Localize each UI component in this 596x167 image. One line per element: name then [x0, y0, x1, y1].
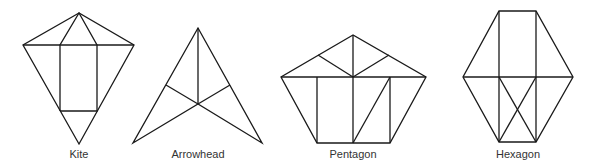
pentagon-right-roof-segment [353, 55, 389, 77]
arrowhead-label: Arrowhead [171, 148, 224, 160]
pentagon-left-roof-segment [318, 55, 353, 77]
pentagon-label: Pentagon [329, 148, 376, 160]
shapes-diagram [0, 0, 596, 167]
arrowhead-right-segment [198, 85, 230, 104]
pentagon-diagonal [353, 77, 390, 143]
hexagon-label: Hexagon [496, 148, 540, 160]
kite-label: Kite [70, 148, 89, 160]
arrowhead-left-segment [166, 85, 198, 104]
pentagon-shape [281, 35, 426, 143]
arrowhead-shape [133, 28, 262, 143]
kite-inner-rect [60, 13, 97, 111]
hexagon-shape [463, 11, 573, 142]
kite-shape [23, 13, 134, 144]
kite-outline [23, 13, 134, 144]
